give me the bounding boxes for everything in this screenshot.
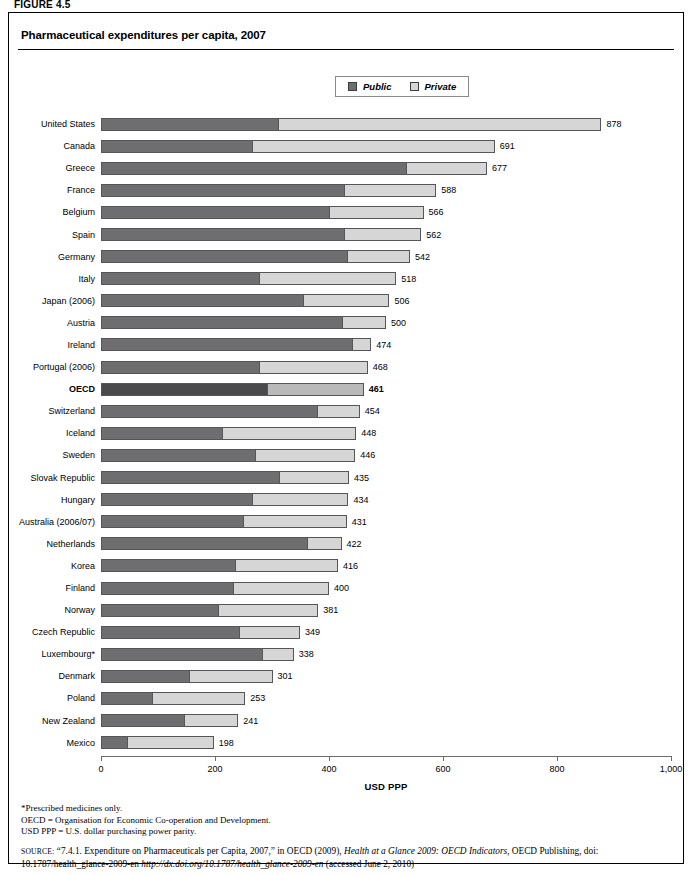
stacked-bar xyxy=(101,140,495,153)
bar-segment-public xyxy=(101,449,255,462)
bar-segment-public xyxy=(101,427,222,440)
stacked-bar xyxy=(101,405,360,418)
table-row: Japan (2006)506 xyxy=(9,290,685,312)
bar-segment-private xyxy=(233,582,329,595)
table-row: New Zealand241 xyxy=(9,710,685,732)
table-row: Denmark301 xyxy=(9,665,685,687)
bar-value-label: 253 xyxy=(250,693,265,703)
bar-segment-private xyxy=(189,670,273,683)
stacked-bar xyxy=(101,184,436,197)
bar-value-label: 518 xyxy=(401,274,416,284)
bar-value-label: 542 xyxy=(415,252,430,262)
bar-category-label: Norway xyxy=(9,605,101,615)
table-row: Canada691 xyxy=(9,135,685,157)
bar-value-label: 301 xyxy=(278,671,293,681)
footnote-0: *Prescribed medicines only. xyxy=(21,803,271,815)
table-row: Czech Republic349 xyxy=(9,621,685,643)
bar-segment-public xyxy=(101,184,344,197)
bar-segment-private xyxy=(347,250,410,263)
bar-category-label: Denmark xyxy=(9,671,101,681)
table-row: Ireland474 xyxy=(9,334,685,356)
bar-value-label: 241 xyxy=(243,716,258,726)
source-note: SOURCE: “7.4.1. Expenditure on Pharmaceu… xyxy=(21,845,673,870)
bar-segment-private xyxy=(222,427,356,440)
bar-category-label: Switzerland xyxy=(9,406,101,416)
table-row: Portugal (2006)468 xyxy=(9,356,685,378)
bar-value-label: 588 xyxy=(441,185,456,195)
bar-segment-public xyxy=(101,670,189,683)
bar-segment-private xyxy=(239,626,300,639)
stacked-bar xyxy=(101,626,300,639)
bar-category-label: Italy xyxy=(9,274,101,284)
bar-category-label: Greece xyxy=(9,163,101,173)
bar-category-label: Austria xyxy=(9,318,101,328)
bar-segment-public xyxy=(101,405,317,418)
bar-segment-public xyxy=(101,338,352,351)
bar-category-label: Hungary xyxy=(9,495,101,505)
bar-category-label: Mexico xyxy=(9,738,101,748)
footnotes: *Prescribed medicines only. OECD = Organ… xyxy=(21,803,271,838)
table-row: Luxembourg*338 xyxy=(9,643,685,665)
bar-segment-private xyxy=(127,736,214,749)
bar-segment-private xyxy=(235,559,338,572)
bar-segment-public xyxy=(101,162,406,175)
table-row: France588 xyxy=(9,179,685,201)
bar-category-label: Finland xyxy=(9,583,101,593)
table-row: Finland400 xyxy=(9,577,685,599)
bar-segment-private xyxy=(406,162,487,175)
x-axis-tick-label: 400 xyxy=(321,764,336,774)
bar-value-label: 431 xyxy=(352,517,367,527)
bar-segment-private xyxy=(259,361,368,374)
table-row: Germany542 xyxy=(9,246,685,268)
bar-segment-private xyxy=(184,714,238,727)
bar-category-label: Luxembourg* xyxy=(9,649,101,659)
stacked-bar xyxy=(101,228,421,241)
bar-value-label: 349 xyxy=(305,627,320,637)
stacked-bar xyxy=(101,515,347,528)
bar-segment-private xyxy=(252,493,348,506)
bar-segment-private xyxy=(262,648,293,661)
x-axis-tick xyxy=(101,756,102,761)
bar-category-label: Japan (2006) xyxy=(9,296,101,306)
bar-segment-private xyxy=(255,449,355,462)
bar-category-label: Poland xyxy=(9,693,101,703)
bar-segment-private xyxy=(317,405,360,418)
stacked-bar xyxy=(101,250,410,263)
figure-frame: Pharmaceutical expenditures per capita, … xyxy=(8,12,684,864)
bar-value-label: 461 xyxy=(369,384,384,394)
bar-rows: United States878Canada691Greece677France… xyxy=(9,113,685,754)
bar-value-label: 566 xyxy=(429,207,444,217)
title-divider xyxy=(18,49,674,50)
bar-segment-public xyxy=(101,471,279,484)
bar-segment-private xyxy=(342,316,386,329)
table-row: Mexico198 xyxy=(9,732,685,754)
x-axis-tick xyxy=(671,756,672,761)
bar-value-label: 446 xyxy=(360,450,375,460)
bar-category-label: Germany xyxy=(9,252,101,262)
bar-segment-private xyxy=(252,140,495,153)
figure-page: FIGURE 4.5 Pharmaceutical expenditures p… xyxy=(0,0,694,875)
plot-area: United States878Canada691Greece677France… xyxy=(9,113,685,763)
bar-value-label: 691 xyxy=(500,141,515,151)
table-row: Austria500 xyxy=(9,312,685,334)
figure-label: FIGURE 4.5 xyxy=(14,0,686,10)
x-axis: 02004006008001,000 xyxy=(101,756,671,757)
bar-segment-public xyxy=(101,626,239,639)
stacked-bar xyxy=(101,714,238,727)
table-row: Korea416 xyxy=(9,555,685,577)
bar-segment-private xyxy=(307,537,342,550)
bar-category-label: Portugal (2006) xyxy=(9,362,101,372)
bar-segment-public xyxy=(101,604,218,617)
bar-segment-public xyxy=(101,361,259,374)
stacked-bar xyxy=(101,162,487,175)
stacked-bar xyxy=(101,316,386,329)
stacked-bar xyxy=(101,449,355,462)
source-line1-italic: Health at a Glance 2009: OECD Indicators xyxy=(344,846,507,856)
bar-segment-public xyxy=(101,140,252,153)
bar-category-label: Korea xyxy=(9,561,101,571)
stacked-bar xyxy=(101,670,273,683)
bar-segment-public xyxy=(101,692,152,705)
table-row: United States878 xyxy=(9,113,685,135)
bar-segment-private xyxy=(218,604,318,617)
stacked-bar xyxy=(101,338,371,351)
